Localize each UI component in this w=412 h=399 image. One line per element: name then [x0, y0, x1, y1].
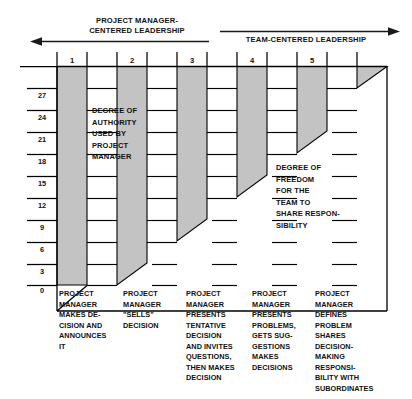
freedom-line-6: SIBILITY [276, 221, 308, 230]
authority-band-0 [57, 67, 87, 286]
y-tick-label-27: 27 [38, 91, 46, 100]
y-tick-label-0: 0 [40, 286, 44, 295]
freedom-annotation: DEGREE OF FREEDOM FOR THE TEAM TO SHARE … [276, 163, 340, 230]
y-tick-label-9: 9 [40, 223, 44, 232]
column-number-1: 1 [70, 56, 75, 65]
column-number-3: 3 [190, 56, 194, 65]
caption-4-line-2: MANAGER [252, 300, 291, 309]
caption-3-line-2: MANAGER [186, 300, 225, 309]
caption-5: PROJECT MANAGER DEFINES PROBLEM SHARES D… [315, 289, 374, 393]
left-arrow-label-line1: PROJECT MANAGER- [96, 16, 178, 25]
caption-3-line-8: THEN MAKES [186, 363, 235, 372]
y-tick-label-12: 12 [38, 201, 46, 210]
caption-2: PROJECT MANAGER "SELLS" DECISION [123, 289, 162, 330]
caption-3-line-7: QUESTIONS, [186, 352, 232, 361]
authority-band-1 [117, 67, 147, 286]
caption-4-line-5: GETS SUG- [252, 331, 293, 340]
caption-5-line-6: DECISION- [315, 342, 354, 351]
caption-5-line-8: RESPONSI- [315, 363, 356, 372]
column-number-4: 4 [250, 56, 255, 65]
header-left-arrow-group: PROJECT MANAGER- CENTERED LEADERSHIP [30, 16, 209, 46]
y-tick-label-3: 3 [40, 267, 44, 276]
caption-2-line-1: PROJECT [123, 289, 158, 298]
caption-1: PROJECT MANAGER MAKES DE- CISION AND ANN… [59, 289, 107, 351]
caption-2-line-3: "SELLS" [123, 310, 154, 319]
y-tick-label-6: 6 [40, 245, 44, 254]
header-right-arrow-group: TEAM-CENTERED LEADERSHIP [220, 27, 400, 44]
caption-4-line-8: DECISIONS [252, 363, 293, 372]
authority-line-1: DEGREE OF [92, 106, 137, 115]
arrow-left-icon [30, 37, 209, 46]
caption-4-line-6: GESTIONS [252, 342, 290, 351]
authority-line-5: MANAGER [92, 152, 132, 161]
caption-4: PROJECT MANAGER PRESENTS PROBLEMS, GETS … [252, 289, 296, 372]
authority-line-3: USED BY [92, 129, 126, 138]
freedom-line-2: FREEDOM [276, 175, 314, 184]
authority-band-group [57, 67, 387, 286]
caption-5-line-3: DEFINES [315, 310, 347, 319]
authority-band-4 [297, 67, 327, 154]
caption-3-line-3: PRESENTS [186, 310, 226, 319]
caption-5-line-2: MANAGER [315, 300, 354, 309]
caption-5-line-10: SUBORDINATES [315, 384, 374, 393]
column-number-2: 2 [130, 56, 134, 65]
caption-3-line-6: AND INVITES [186, 342, 233, 351]
freedom-line-3: FOR THE [276, 186, 310, 195]
caption-4-line-7: MAKES [252, 352, 279, 361]
chart-frame [57, 67, 387, 312]
caption-4-line-1: PROJECT [252, 289, 287, 298]
authority-line-2: AUTHORITY [92, 118, 137, 127]
freedom-line-1: DEGREE OF [276, 163, 321, 172]
caption-1-line-5: ANNOUNCES [59, 331, 107, 340]
caption-3-line-1: PROJECT [186, 289, 221, 298]
caption-1-line-3: MAKES DE- [59, 310, 101, 319]
y-tick-label-24: 24 [38, 113, 47, 122]
y-axis: 27 24 21 18 15 12 9 6 3 0 [27, 67, 57, 296]
caption-5-line-1: PROJECT [315, 289, 350, 298]
freedom-line-4: TEAM TO [276, 198, 310, 207]
authority-band-3 [237, 67, 267, 198]
caption-5-line-7: MAKING [315, 352, 345, 361]
caption-1-line-4: CISION AND [59, 321, 102, 330]
freedom-line-5: SHARE RESPON- [276, 209, 340, 218]
caption-3-line-5: DECISION [186, 331, 222, 340]
caption-2-line-2: MANAGER [123, 300, 162, 309]
authority-band-2 [177, 67, 207, 242]
caption-1-line-2: MANAGER [59, 300, 98, 309]
caption-3: PROJECT MANAGER PRESENTS TENTATIVE DECIS… [186, 289, 235, 382]
column-number-5: 5 [310, 56, 315, 65]
left-arrow-label-line2: CENTERED LEADERSHIP [89, 26, 185, 35]
leadership-continuum-diagram: PROJECT MANAGER- CENTERED LEADERSHIP TEA… [0, 0, 412, 399]
caption-5-line-5: SHARES [315, 331, 346, 340]
y-tick-label-18: 18 [38, 157, 46, 166]
caption-5-line-9: BILITY WITH [315, 373, 359, 382]
y-tick-label-21: 21 [38, 135, 46, 144]
caption-1-line-1: PROJECT [59, 289, 94, 298]
caption-3-line-4: TENTATIVE [186, 321, 226, 330]
authority-line-4: PROJECT [92, 141, 128, 150]
diagram-canvas: PROJECT MANAGER- CENTERED LEADERSHIP TEA… [0, 0, 412, 399]
column-number-row: 1 2 3 4 5 [20, 52, 357, 67]
caption-2-line-4: DECISION [123, 321, 159, 330]
authority-end-triangle [357, 67, 387, 89]
caption-4-line-4: PROBLEMS, [252, 321, 296, 330]
caption-5-line-4: PROBLEM [315, 321, 352, 330]
caption-3-line-9: DECISION [186, 373, 222, 382]
right-arrow-label: TEAM-CENTERED LEADERSHIP [246, 35, 366, 44]
y-tick-label-15: 15 [38, 179, 46, 188]
caption-1-line-6: IT [59, 342, 66, 351]
caption-4-line-3: PRESENTS [252, 310, 292, 319]
